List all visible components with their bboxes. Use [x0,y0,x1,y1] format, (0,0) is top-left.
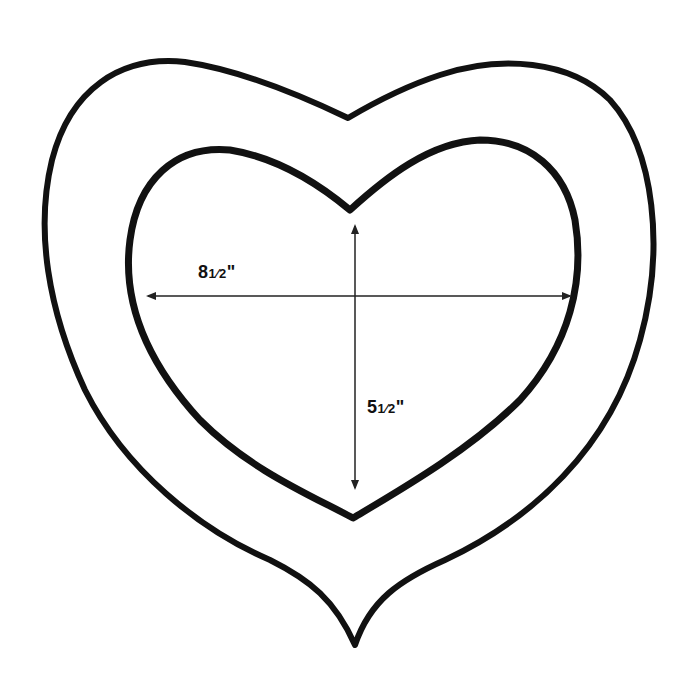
height-whole: 5 [367,397,378,417]
height-unit: " [396,397,405,417]
heart-frame-diagram [0,0,693,681]
width-whole: 8 [198,262,209,282]
inner-heart-outline [128,140,577,518]
outer-heart-outline [45,61,654,645]
width-unit: " [227,262,236,282]
width-dimension-arrow [146,292,572,300]
width-dimension-label: 81⁄2" [198,262,236,283]
width-fraction: 1⁄2 [209,266,227,281]
height-dimension-label: 51⁄2" [367,397,405,418]
height-dimension-arrow [351,224,359,490]
height-fraction: 1⁄2 [378,401,396,416]
